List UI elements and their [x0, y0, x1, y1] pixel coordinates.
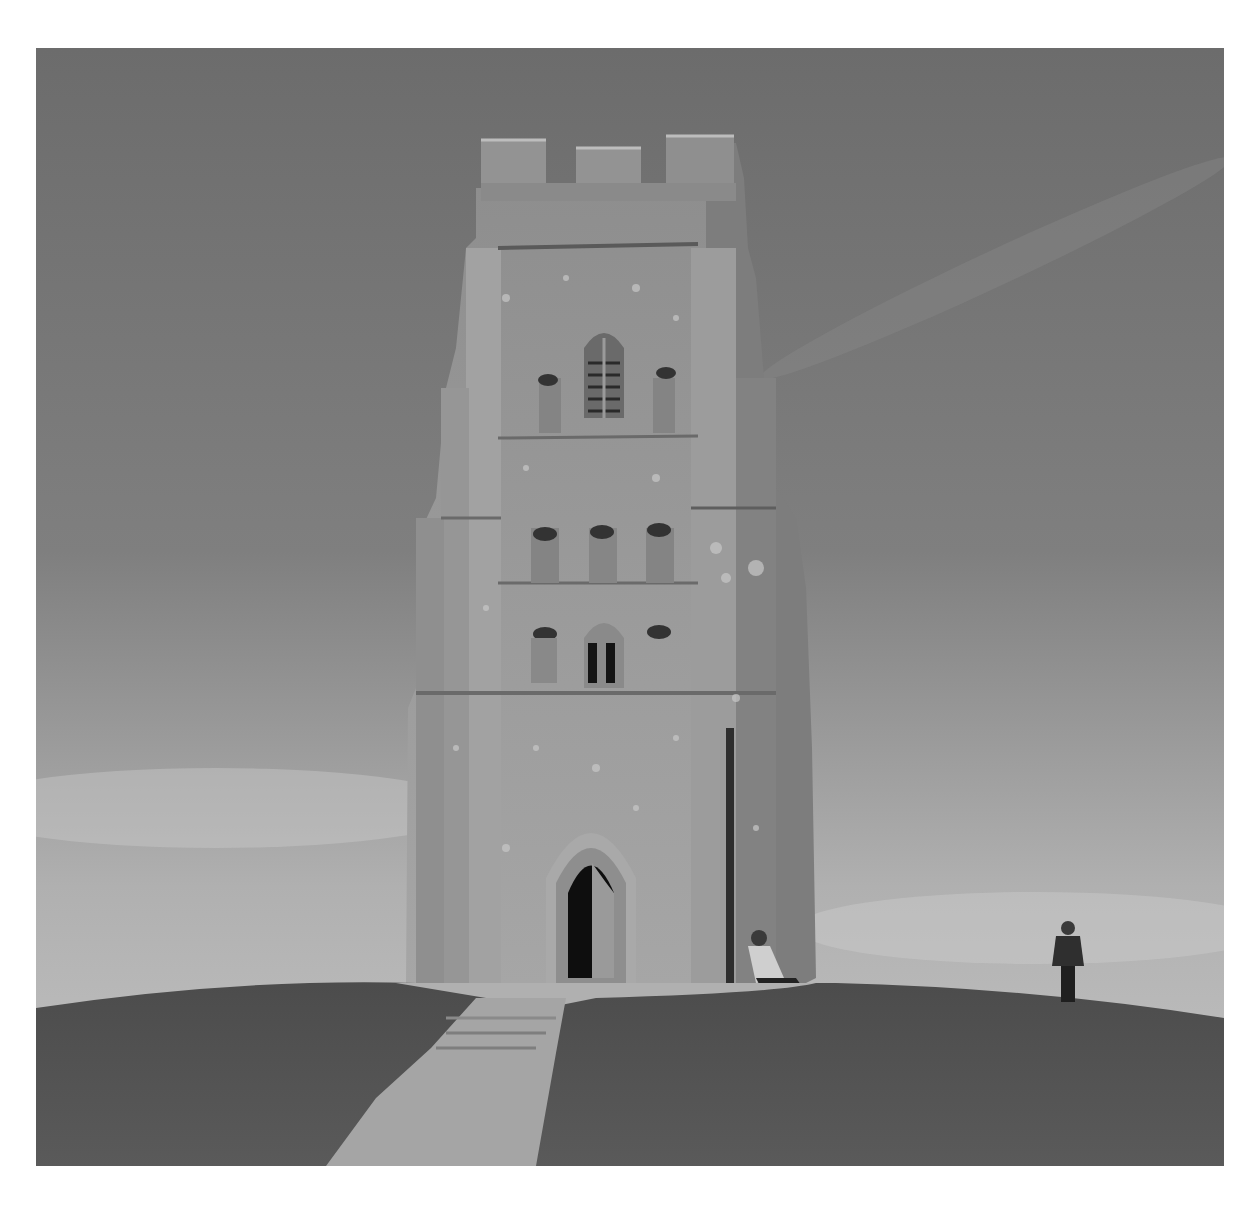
tower-scene — [36, 48, 1224, 1166]
photograph: Black-and-white photograph of a medieval… — [36, 48, 1224, 1166]
